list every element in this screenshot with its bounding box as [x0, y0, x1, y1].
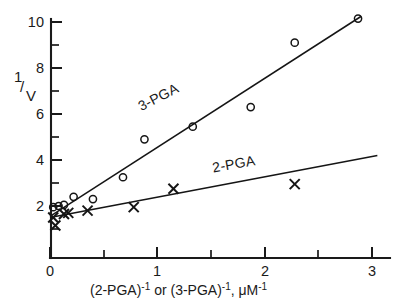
series-label-2pga: 2-PGA: [211, 152, 257, 175]
axes-group: [50, 19, 390, 258]
x-tick-marks: [50, 247, 372, 258]
x-axis-title-comma: ,: [231, 282, 239, 298]
x-tick-label-0: 0: [46, 263, 54, 279]
y-tick-marks: [51, 22, 62, 229]
data-point-2pga: [290, 179, 300, 189]
data-point-3pga: [247, 104, 254, 111]
series-2pga-markers: [48, 179, 300, 230]
fit-line-3-pga: [50, 16, 361, 216]
x-tick-labels: 0 1 2 3: [46, 263, 376, 279]
data-point-2pga: [129, 202, 139, 212]
y-axis-title-denominator: V: [26, 87, 36, 104]
y-tick-label-4: 4: [36, 152, 44, 168]
y-tick-label-8: 8: [36, 60, 44, 76]
x-tick-label-3: 3: [368, 263, 376, 279]
data-point-3pga: [291, 39, 298, 46]
x-axis-title: (2-PGA)-1 or (3-PGA)-1, μM-1: [90, 281, 268, 298]
y-tick-label-6: 6: [36, 106, 44, 122]
y-axis-title-slash: /: [20, 78, 25, 95]
y-tick-label-10: 10: [28, 14, 44, 30]
y-tick-label-2: 2: [36, 198, 44, 214]
data-point-3pga: [141, 136, 148, 143]
x-axis-title-conj: or: [150, 282, 170, 298]
x-axis-title-part2: (3-PGA): [170, 282, 221, 298]
x-tick-label-1: 1: [153, 263, 161, 279]
data-point-3pga: [70, 193, 77, 200]
x-axis-title-part1: (2-PGA): [90, 282, 141, 298]
lineweaver-burk-plot: 10 8 6 4 2 0 1 2 3 1 / V (2-PGA)-1 or (3…: [0, 0, 409, 306]
x-axis-title-unit: μM: [239, 282, 259, 298]
fit-lines-group: [50, 16, 377, 217]
x-tick-label-2: 2: [261, 263, 269, 279]
data-point-2pga: [168, 184, 178, 194]
data-point-3pga: [89, 196, 96, 203]
y-tick-labels: 10 8 6 4 2: [28, 14, 44, 214]
x-axis-title-sup3: -1: [258, 281, 267, 292]
series-3pga-markers: [50, 15, 362, 211]
figure-container: 10 8 6 4 2 0 1 2 3 1 / V (2-PGA)-1 or (3…: [0, 0, 409, 306]
data-point-3pga: [119, 174, 126, 181]
series-label-3pga: 3-PGA: [135, 80, 181, 114]
y-axis-title: 1 / V: [14, 68, 36, 104]
svg-text:(2-PGA)-1 or (3-PGA)-1, μM-1: (2-PGA)-1 or (3-PGA)-1, μM-1: [90, 281, 268, 298]
